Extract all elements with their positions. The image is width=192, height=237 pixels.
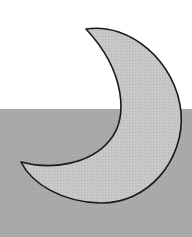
crescent-moon-icon [0,0,192,237]
crescent-moon-illustration [0,0,192,237]
